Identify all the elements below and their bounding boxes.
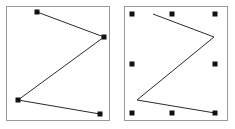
bbox-handle-group[interactable] (130, 12, 218, 116)
panel-node-edit[interactable] (6, 6, 110, 121)
bbox-handle-top-left[interactable] (130, 12, 135, 17)
bbox-handle-middle-right[interactable] (213, 62, 218, 67)
node-handle-3[interactable] (16, 98, 21, 103)
bbox-handle-middle-left[interactable] (130, 62, 135, 67)
bbox-handle-bottom-center[interactable] (170, 111, 175, 116)
node-handle-4[interactable] (98, 112, 103, 117)
node-edit-canvas[interactable] (6, 6, 110, 121)
bbox-handle-top-center[interactable] (170, 12, 175, 17)
bbox-handle-top-right[interactable] (213, 12, 218, 17)
zigzag-polyline[interactable] (137, 14, 215, 113)
node-handle-1[interactable] (35, 10, 40, 15)
zigzag-polyline[interactable] (18, 12, 104, 114)
object-select-canvas[interactable] (124, 6, 228, 121)
node-handle-group[interactable] (16, 10, 107, 117)
figure-root (0, 0, 235, 129)
node-handle-2[interactable] (102, 35, 107, 40)
bbox-handle-bottom-left[interactable] (130, 111, 135, 116)
panel-object-select[interactable] (124, 6, 228, 121)
bbox-handle-bottom-right[interactable] (213, 111, 218, 116)
